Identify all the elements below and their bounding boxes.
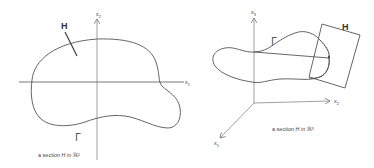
left-section-label: H <box>61 21 68 31</box>
right-x2-label: x2 <box>334 98 340 106</box>
left-section-line <box>65 32 77 56</box>
right-hidden-curve <box>320 40 329 56</box>
right-figure: H Γ x3 x2 x1 a section H in ℝ³ <box>213 9 360 148</box>
right-curve-label: Γ <box>271 36 277 47</box>
right-x2-axis <box>254 101 330 103</box>
right-intersection-dot <box>328 56 330 58</box>
diagram-canvas: H x2 x1 Γ a section H in ℝ² H Γ x3 x2 x1 <box>0 0 374 168</box>
left-x1-label: x1 <box>185 79 191 87</box>
left-x2-label: x2 <box>96 11 102 19</box>
left-curve-label: Γ <box>75 132 81 143</box>
right-x3-label: x3 <box>251 9 257 17</box>
right-x1-label: x1 <box>214 140 220 148</box>
left-caption: a section H in ℝ² <box>38 152 80 158</box>
right-section-label: H <box>342 22 349 32</box>
right-x1-axis <box>220 103 254 138</box>
right-caption: a section H in ℝ³ <box>272 126 314 132</box>
left-figure: H x2 x1 Γ a section H in ℝ² <box>19 11 191 160</box>
left-boundary-curve <box>31 39 180 128</box>
